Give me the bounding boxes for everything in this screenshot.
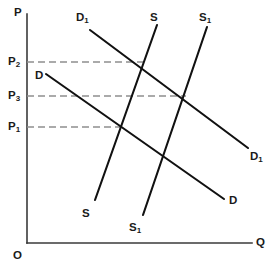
curves-group	[46, 25, 248, 215]
demand-curve-d1	[90, 30, 248, 148]
curve-label-s-top: S	[150, 11, 158, 23]
curve-label-d-top: D	[35, 69, 43, 81]
curve-label-d-bottom: D	[229, 194, 237, 206]
supply-demand-diagram: P Q O P2 P3 P1 D1 D1 S S S1 S1 D D	[0, 0, 279, 270]
supply-curve-s	[95, 25, 157, 200]
price-tick-p3: P3	[8, 89, 21, 103]
supply-curve-s1	[143, 27, 207, 215]
demand-curve-d	[46, 74, 224, 199]
price-tick-p2: P2	[8, 55, 21, 69]
curve-label-d1-top: D1	[76, 11, 89, 25]
curve-label-s1-top: S1	[199, 11, 212, 25]
curve-label-d1-bottom: D1	[250, 150, 263, 164]
price-tick-p1: P1	[8, 120, 21, 134]
curve-label-s-bottom: S	[82, 207, 90, 219]
axes-group	[27, 14, 252, 243]
price-tick-labels: P2 P3 P1	[8, 55, 21, 134]
curve-label-s1-bottom: S1	[129, 221, 142, 235]
chart-canvas: P Q O P2 P3 P1 D1 D1 S S S1 S1 D D	[0, 0, 279, 270]
y-axis-label: P	[14, 6, 22, 18]
origin-label: O	[13, 249, 22, 261]
x-axis-label: Q	[256, 236, 265, 248]
